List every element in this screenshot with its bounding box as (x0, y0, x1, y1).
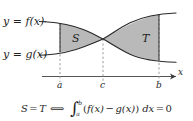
formula-differential: dx (139, 103, 154, 114)
x-tick-label-b: b (156, 81, 162, 90)
integral-lower-limit: a (76, 111, 80, 117)
plot-area: y = f(x) y = g(x) S T a c b x (0, 0, 193, 95)
formula-term-g: g(x) (115, 103, 135, 114)
formula-equals-2: = (154, 103, 165, 114)
formula-result: 0 (166, 103, 172, 114)
formula-minus: − (104, 103, 115, 114)
x-tick-label-a: a (57, 81, 62, 90)
formula-caption: S=T ⟺ ∫ b a (f(x)−g(x)) dx=0 (0, 96, 193, 121)
shaded-region-T (103, 15, 159, 61)
region-label-S: S (72, 33, 80, 44)
formula-iff-icon: ⟺ (46, 103, 68, 114)
formula-term-f: f(x) (87, 103, 104, 114)
integral-upper-limit: b (78, 100, 82, 106)
x-axis-label: x (178, 68, 183, 77)
x-tick-label-c: c (100, 81, 105, 90)
formula-T: T (39, 103, 46, 114)
curve-label-g: y = g(x) (3, 49, 47, 60)
formula-S: S (21, 103, 28, 114)
curve-label-f: y = f(x) (3, 16, 44, 27)
formula-equals-1: = (28, 103, 39, 114)
integral-block: ∫ b a (70, 101, 82, 117)
figure-container: y = f(x) y = g(x) S T a c b x S=T ⟺ ∫ b … (0, 0, 193, 121)
region-label-T: T (142, 33, 149, 44)
